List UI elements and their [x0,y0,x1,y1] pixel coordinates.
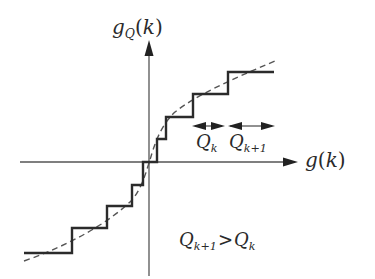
quantizer-diagram: gQ(k) g(k) Qk Qk+1 Qk+1>Qk [0,0,375,279]
qk-label-sub: k [211,142,218,155]
y-label-sub: Q [125,26,135,41]
qk1-label-q: Q [229,131,244,152]
relation-operator: > [218,229,233,250]
qk1-label-sub: k+1 [244,142,267,155]
y-label-g: g [112,15,125,39]
x-label-open-paren: ( [318,148,326,172]
relation-left-sub: k+1 [194,240,217,253]
y-axis-label: gQ(k) [112,17,163,37]
x-label-close-paren: ) [338,148,346,172]
qk-label-q: Q [196,131,211,152]
interval-relation-label: Qk+1>Qk [179,231,256,249]
x-label-g: g [305,148,318,172]
x-axis-label: g(k) [305,150,346,170]
x-axis-arrowhead-icon [283,158,298,167]
relation-right-q: Q [234,229,249,250]
qk1-interval-arrow [228,122,275,130]
x-label-k: k [326,148,338,172]
y-label-k: k [143,15,155,39]
y-label-open-paren: ( [135,15,143,39]
y-label-close-paren: ) [155,15,163,39]
y-axis-arrowhead-icon [145,40,154,56]
qk-label: Qk [196,133,218,151]
relation-left-q: Q [179,229,194,250]
relation-right-sub: k [249,240,256,253]
qk1-label: Qk+1 [229,133,267,151]
qk-interval-arrow [192,122,225,130]
